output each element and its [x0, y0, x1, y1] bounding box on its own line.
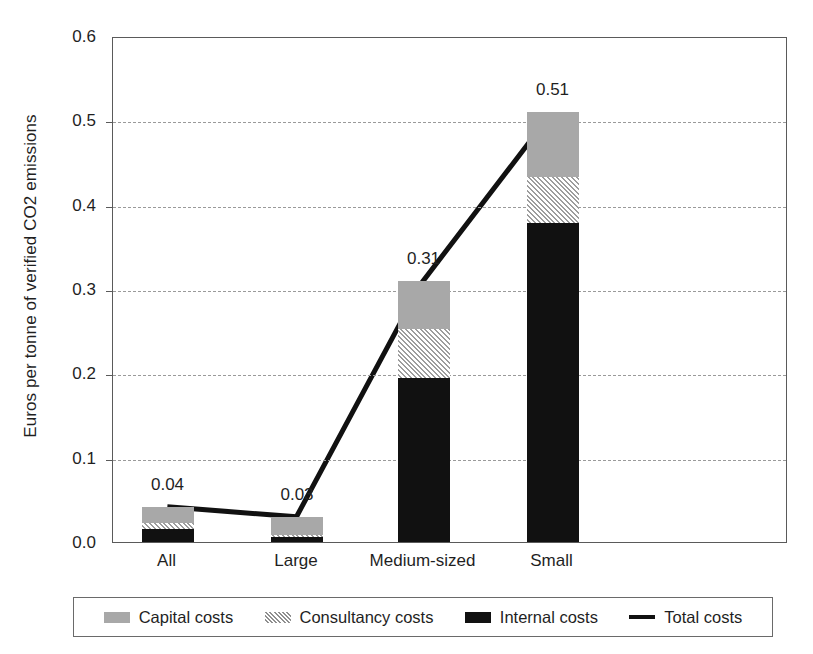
y-axis-tick-label: 0.1 — [72, 449, 96, 469]
stacked-bar — [142, 507, 194, 542]
total-line-swatch-icon — [629, 615, 655, 619]
y-axis-tick-mark — [106, 291, 113, 292]
y-axis-tick-labels: 0.00.10.20.30.40.50.6 — [0, 0, 104, 654]
gridline — [113, 375, 786, 376]
legend-item[interactable]: Internal costs — [465, 608, 598, 627]
internal-segment — [142, 529, 194, 542]
y-axis-tick-label: 0.6 — [72, 27, 96, 47]
total-costs-line — [113, 38, 786, 542]
gridline — [113, 207, 786, 208]
y-axis-tick-mark — [106, 460, 113, 461]
legend-label: Capital costs — [139, 608, 233, 627]
y-axis-tick-label: 0.2 — [72, 364, 96, 384]
y-axis-tick-mark — [106, 122, 113, 123]
internal-swatch-icon — [465, 612, 491, 623]
y-axis-tick-mark — [106, 207, 113, 208]
total-costs-polyline — [167, 114, 551, 517]
capital-swatch-icon — [104, 612, 130, 623]
consultancy-swatch-icon — [265, 612, 291, 623]
x-axis-tick-label: Small — [530, 551, 573, 571]
data-label: 0.31 — [407, 249, 440, 269]
data-label: 0.51 — [536, 80, 569, 100]
chart-legend: Capital costsConsultancy costsInternal c… — [73, 597, 773, 637]
consultancy-segment — [271, 535, 323, 537]
x-axis-tick-label: All — [157, 551, 176, 571]
x-axis-tick-label: Medium-sized — [370, 551, 476, 571]
stacked-bar — [398, 281, 450, 542]
consultancy-segment — [398, 329, 450, 378]
capital-segment — [142, 507, 194, 524]
chart-figure: Euros per tonne of verified CO2 emission… — [0, 0, 813, 654]
plot-inner: 0.040.030.310.51 — [113, 38, 786, 542]
consultancy-segment — [527, 177, 579, 223]
internal-segment — [271, 537, 323, 542]
y-axis-tick-label: 0.5 — [72, 111, 96, 131]
data-label: 0.03 — [280, 485, 313, 505]
internal-segment — [398, 378, 450, 542]
plot-area: 0.040.030.310.51 — [112, 37, 787, 543]
capital-segment — [398, 281, 450, 329]
consultancy-segment — [142, 523, 194, 529]
legend-label: Total costs — [664, 608, 742, 627]
legend-label: Internal costs — [500, 608, 598, 627]
legend-item[interactable]: Consultancy costs — [265, 608, 434, 627]
gridline — [113, 122, 786, 123]
legend-label: Consultancy costs — [300, 608, 434, 627]
gridline — [113, 460, 786, 461]
legend-item[interactable]: Capital costs — [104, 608, 233, 627]
stacked-bar — [527, 112, 579, 542]
capital-segment — [271, 517, 323, 536]
y-axis-tick-mark — [106, 375, 113, 376]
stacked-bar — [271, 517, 323, 542]
y-axis-tick-label: 0.3 — [72, 280, 96, 300]
legend-item[interactable]: Total costs — [629, 608, 742, 627]
capital-segment — [527, 112, 579, 177]
data-label: 0.04 — [151, 475, 184, 495]
x-axis-tick-label: Large — [274, 551, 317, 571]
internal-segment — [527, 223, 579, 542]
y-axis-tick-label: 0.0 — [72, 533, 96, 553]
y-axis-tick-label: 0.4 — [72, 196, 96, 216]
gridline — [113, 291, 786, 292]
